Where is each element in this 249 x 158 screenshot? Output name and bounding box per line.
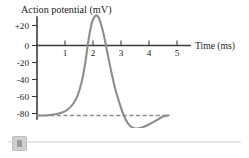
scrollbar-track[interactable] [8,141,241,143]
scrollbar-area [0,128,249,158]
y-tick-label-0: 0 [24,41,29,51]
chart-title: Action potential (mV) [21,4,112,16]
x-tick-label-2: 2 [91,48,96,58]
x-tick-label-5: 5 [175,48,180,58]
action-potential-curve [37,15,169,128]
x-tick-label-3: 3 [119,48,124,58]
x-tick-label-4: 4 [147,48,152,58]
y-tick-label-plus20: +20 [15,21,30,31]
action-potential-figure: Action potential (mV) +20 0 -20 -40 -60 … [0,0,249,128]
y-tick-label-minus80: -80 [17,109,30,119]
x-axis-label: Time (ms) [195,40,235,52]
handle-grip-icon [17,140,22,147]
y-tick-label-minus40: -40 [17,75,30,85]
chart-canvas: Action potential (mV) +20 0 -20 -40 -60 … [0,0,249,128]
y-tick-label-minus60: -60 [17,92,30,102]
x-tick-label-1: 1 [63,48,68,58]
scrollbar-handle[interactable] [12,136,27,151]
y-tick-label-minus20: -20 [17,58,30,68]
